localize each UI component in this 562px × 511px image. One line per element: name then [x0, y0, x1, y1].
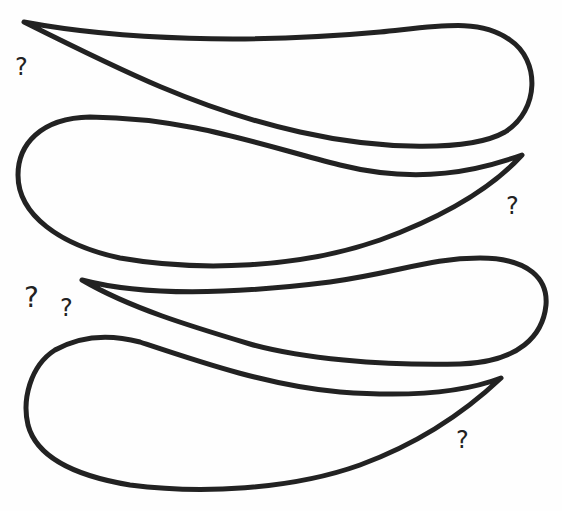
question-mark-5: ? — [456, 428, 469, 452]
question-mark-4: ? — [60, 296, 73, 320]
airfoil-shape-1 — [24, 22, 532, 146]
diagram-canvas: ? ? ? ? ? — [0, 0, 562, 511]
airfoil-shapes — [0, 0, 562, 511]
airfoil-shape-4 — [26, 337, 501, 489]
question-mark-2: ? — [506, 194, 519, 218]
question-mark-1: ? — [15, 55, 28, 79]
airfoil-shape-2 — [18, 117, 522, 266]
question-mark-3: ? — [24, 284, 39, 312]
